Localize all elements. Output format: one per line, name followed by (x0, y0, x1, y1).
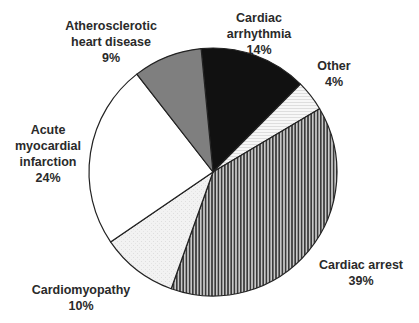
slice-name-line: Cardiomyopathy (32, 282, 131, 298)
slice-name-line: Cardiac arrest (319, 257, 403, 273)
slice-label-cardiomyopathy: Cardiomyopathy10% (32, 282, 131, 314)
slice-name-line: arrhythmia (227, 26, 292, 42)
slice-percent: 39% (319, 273, 403, 289)
slice-percent: 14% (227, 42, 292, 58)
slice-name-line: infarction (15, 154, 81, 170)
slice-name-line: myocardial (15, 138, 81, 154)
pie-slices (89, 48, 337, 296)
slice-percent: 9% (65, 50, 157, 66)
pie-chart: Cardiacarrhythmia14%Other4%Cardiac arres… (0, 0, 419, 323)
slice-label-other: Other4% (317, 58, 350, 90)
slice-name-line: Atherosclerotic (65, 18, 157, 34)
slice-label-acute-myocardial-infarction: Acutemyocardialinfarction24% (15, 122, 81, 186)
slice-percent: 4% (317, 74, 350, 90)
slice-name-line: heart disease (65, 34, 157, 50)
slice-percent: 24% (15, 170, 81, 186)
slice-percent: 10% (32, 298, 131, 314)
slice-name-line: Other (317, 58, 350, 74)
slice-name-line: Cardiac (227, 10, 292, 26)
slice-name-line: Acute (15, 122, 81, 138)
slice-label-cardiac-arrhythmia: Cardiacarrhythmia14% (227, 10, 292, 58)
slice-label-cardiac-arrest: Cardiac arrest39% (319, 257, 403, 289)
slice-label-atherosclerotic-heart-disease: Atheroscleroticheart disease9% (65, 18, 157, 66)
